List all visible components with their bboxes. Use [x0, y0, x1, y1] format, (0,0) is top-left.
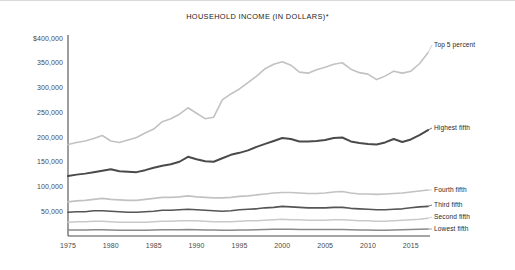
series-label-top-5-percent: Top 5 percent [434, 41, 475, 49]
leader-line [428, 217, 432, 218]
chart-container: HOUSEHOLD INCOME (IN DOLLARS)* $400,0003… [0, 0, 515, 270]
x-axis-tick-label: 1995 [231, 242, 247, 249]
series-leader-lines [428, 45, 432, 229]
x-axis-tick-label: 2005 [317, 242, 333, 249]
series-line-highest-fifth [68, 130, 428, 176]
series-line-lowest-fifth [68, 229, 428, 230]
x-axis-tick-label: 2015 [403, 242, 419, 249]
series-line-third-fifth [68, 206, 428, 212]
x-axis-tick-label: 1975 [60, 242, 76, 249]
y-axis-tick-label: $400,000 [33, 35, 63, 42]
data-series-group [68, 53, 428, 230]
leader-line [428, 205, 432, 206]
x-axis-tick-label: 1980 [103, 242, 119, 249]
series-line-top-5-percent [68, 53, 428, 145]
leader-line [428, 45, 432, 53]
series-label-second-fifth: Second fifth [434, 213, 470, 220]
series-label-lowest-fifth: Lowest fifth [434, 225, 469, 232]
x-axis-tick-label: 2010 [360, 242, 376, 249]
x-axis-tick-label: 2000 [274, 242, 290, 249]
series-label-highest-fifth: Highest fifth [434, 124, 470, 132]
y-axis-tick-label: 150,000 [37, 158, 63, 165]
series-labels-group: Top 5 percentHighest fifthFourth fifthTh… [434, 41, 475, 232]
series-label-third-fifth: Third fifth [434, 201, 463, 208]
series-line-fourth-fifth [68, 190, 428, 202]
series-line-second-fifth [68, 218, 428, 222]
y-axis-tick-label: 300,000 [37, 84, 63, 91]
series-label-fourth-fifth: Fourth fifth [434, 186, 467, 193]
x-axis-tick-label: 1990 [189, 242, 205, 249]
y-axis-tick-label: 100,000 [37, 183, 63, 190]
y-axis-tick-label: 350,000 [37, 59, 63, 66]
x-axis-tick-label: 1985 [146, 242, 162, 249]
y-axis-tick-label: 250,000 [37, 109, 63, 116]
line-chart-plot: $400,000350,000300,000250,000200,000150,… [0, 0, 515, 270]
y-axis-tick-label: 200,000 [37, 134, 63, 141]
y-axis-tick-labels: $400,000350,000300,000250,000200,000150,… [33, 35, 63, 215]
leader-line [428, 128, 432, 130]
y-axis-tick-label: 50,000 [41, 208, 63, 215]
x-axis-tick-labels: 197519801985199019952000200520102015 [60, 242, 419, 249]
